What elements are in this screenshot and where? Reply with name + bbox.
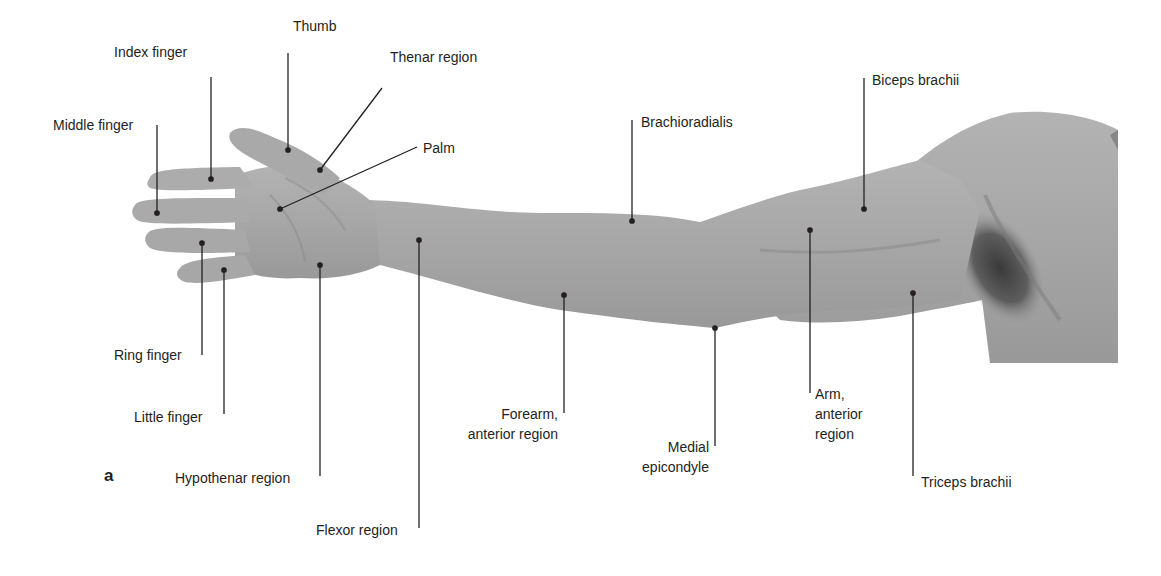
hand-shape [132,128,380,283]
label-triceps-brachii: Triceps brachii [921,472,1012,492]
forearm-shape [330,160,980,328]
label-arm-line-2: anterior [815,404,862,424]
label-thenar-region: Thenar region [390,47,477,67]
label-arm-line-1: Arm, [815,384,862,404]
label-forearm-anterior-region: Forearm, anterior region [440,404,558,444]
label-index-finger: Index finger [114,42,187,62]
label-middle-finger: Middle finger [53,115,133,135]
label-brachioradialis: Brachioradialis [641,112,733,132]
label-ring-finger: Ring finger [114,345,182,365]
label-little-finger: Little finger [134,407,202,427]
panel-letter: a [104,466,113,486]
label-medial-epicondyle: Medial epicondyle [610,437,709,477]
label-arm-line-3: region [815,424,862,444]
label-flexor-region: Flexor region [316,520,398,540]
label-arm-anterior-region: Arm, anterior region [815,384,862,444]
label-forearm-line-1: Forearm, [440,404,558,424]
label-forearm-line-2: anterior region [440,424,558,444]
anatomy-figure: Thumb Index finger Thenar region Middle … [0,0,1161,576]
label-biceps-brachii: Biceps brachii [872,70,959,90]
label-hypothenar-region: Hypothenar region [175,468,290,488]
label-thumb: Thumb [293,16,337,36]
label-medial-line-1: Medial [610,437,709,457]
label-palm: Palm [423,138,455,158]
label-medial-line-2: epicondyle [610,457,709,477]
